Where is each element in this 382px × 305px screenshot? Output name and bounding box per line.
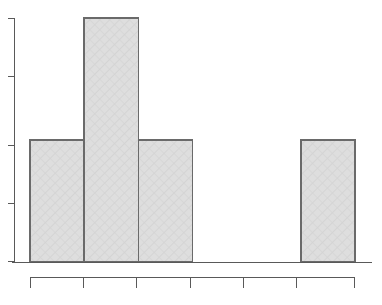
bar-hatch-bin-1 (30, 140, 84, 262)
bar-bin-3 (138, 140, 192, 262)
bar-hatch-bin-6 (301, 140, 355, 262)
bar-bin-2 (84, 18, 138, 262)
histogram-figure (0, 0, 382, 305)
bar-bin-6 (301, 140, 355, 262)
bar-hatch-bin-3 (138, 140, 192, 262)
bar-bin-1 (30, 140, 84, 262)
chart-canvas (0, 0, 382, 305)
bar-hatch-bin-2 (84, 18, 138, 262)
